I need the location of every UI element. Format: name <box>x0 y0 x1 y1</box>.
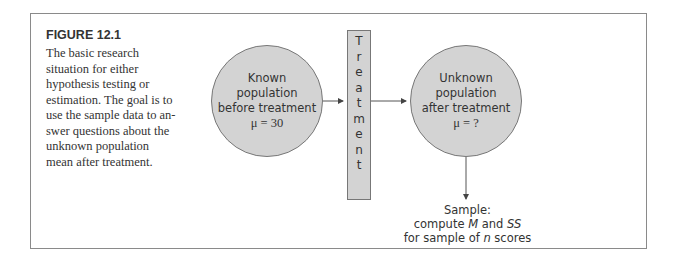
known-label: Known <box>248 71 287 86</box>
known-population-circle: Known population before treatment μ = 30 <box>211 45 323 157</box>
sample-label: Sample: compute M and SS for sample of n… <box>395 203 540 245</box>
unknown-mu: μ = ? <box>453 116 479 131</box>
unknown-population-circle: Unknown population after treatment μ = ? <box>410 45 522 157</box>
text: and <box>478 217 507 231</box>
known-population-label: population <box>236 86 297 101</box>
sample-title: Sample: <box>395 203 540 217</box>
text: compute <box>414 217 468 231</box>
treatment-letter: m <box>353 112 365 128</box>
text: for sample of <box>404 231 484 245</box>
treatment-letter: n <box>355 143 363 159</box>
unknown-population-label: population <box>435 86 496 101</box>
unknown-timing-label: after treatment <box>422 101 511 116</box>
stat-M: M <box>468 217 478 231</box>
treatment-letter: T <box>355 34 362 50</box>
treatment-letter: r <box>357 50 362 66</box>
known-mu: μ = 30 <box>251 116 284 131</box>
treatment-letter: t <box>357 158 362 174</box>
text: scores <box>491 231 532 245</box>
sample-size-line: for sample of n scores <box>395 231 540 245</box>
stat-SS: SS <box>507 217 521 231</box>
known-timing-label: before treatment <box>218 101 316 116</box>
sample-compute-line: compute M and SS <box>395 217 540 231</box>
treatment-bar: T r e a t m e n t <box>347 30 371 200</box>
treatment-letter: e <box>355 65 362 81</box>
arrows <box>0 0 679 261</box>
treatment-letter: e <box>355 127 362 143</box>
stat-n: n <box>483 231 490 245</box>
treatment-letter: a <box>355 81 362 97</box>
treatment-letter: t <box>357 96 362 112</box>
unknown-label: Unknown <box>439 71 492 86</box>
